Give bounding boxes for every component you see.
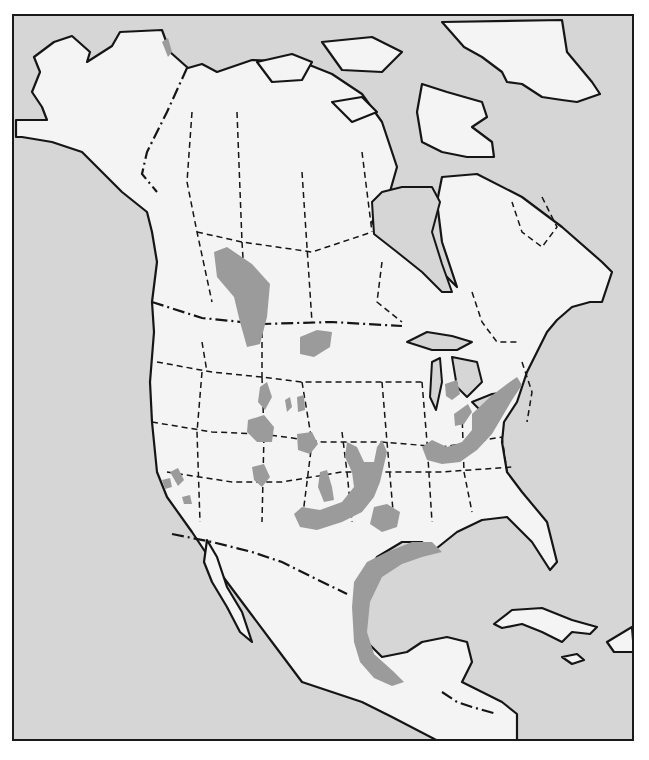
- north-america-map: [14, 16, 632, 739]
- map-frame: [12, 14, 634, 741]
- range-patch-wyoming: [297, 395, 305, 412]
